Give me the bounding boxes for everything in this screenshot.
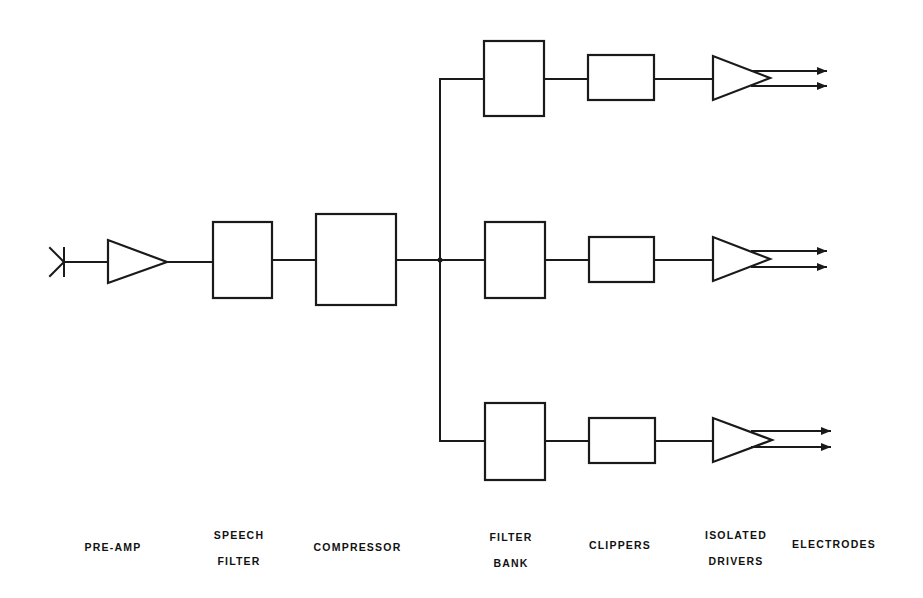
speech-filter-box — [213, 222, 272, 298]
label-speech-filter: SPEECH FILTER — [204, 522, 274, 574]
filter-bank-box-1 — [484, 41, 544, 116]
clipper-box-2 — [589, 237, 654, 282]
pre-amp-triangle — [108, 240, 167, 283]
label-compressor: COMPRESSOR — [305, 534, 410, 560]
label-pre-amp: PRE-AMP — [78, 534, 148, 560]
clipper-box-3 — [589, 418, 655, 463]
label-electrodes: ELECTRODES — [779, 531, 889, 557]
filter-bank-box-3 — [485, 403, 545, 480]
block-diagram — [0, 0, 923, 598]
driver-triangle-3 — [713, 418, 772, 462]
compressor-box — [316, 214, 396, 305]
channel-1 — [440, 41, 826, 116]
label-isolated-drivers: ISOLATED DRIVERS — [696, 522, 776, 574]
label-filter-bank: FILTER BANK — [480, 524, 542, 576]
filter-bank-box-2 — [485, 222, 545, 298]
label-clippers: CLIPPERS — [580, 532, 660, 558]
clipper-box-1 — [588, 55, 654, 100]
channel-3 — [440, 403, 830, 480]
driver-triangle-2 — [713, 237, 770, 281]
driver-triangle-1 — [713, 56, 770, 100]
channel-2 — [440, 222, 826, 298]
input-antenna-icon — [50, 248, 64, 276]
